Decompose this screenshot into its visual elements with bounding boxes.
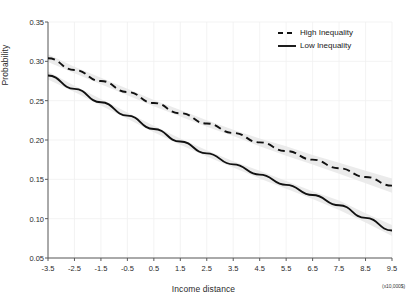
- x-tick-label: 8.5: [360, 264, 370, 273]
- x-tick-label: -0.5: [121, 264, 134, 273]
- y-tick-label: 0.30: [14, 57, 44, 66]
- x-tick-label: 5.5: [281, 264, 291, 273]
- x-tick-label: 2.5: [202, 264, 212, 273]
- tick-marks: [45, 22, 392, 261]
- x-tick-label: 6.5: [307, 264, 317, 273]
- x-tick-label: 7.5: [334, 264, 344, 273]
- y-tick-label: 0.20: [14, 136, 44, 145]
- x-tick-label: -3.5: [42, 264, 55, 273]
- x-tick-label: 9.5: [387, 264, 397, 273]
- x-tick-label: 0.5: [149, 264, 159, 273]
- y-tick-label: 0.10: [14, 214, 44, 223]
- legend-item-label: Low Inequality: [300, 41, 351, 50]
- y-axis-title: Probability: [0, 20, 10, 110]
- y-tick-label: 0.05: [14, 254, 44, 263]
- x-axis-title: Income distance: [0, 284, 407, 294]
- data-curves: [48, 58, 392, 230]
- x-tick-label: -2.5: [68, 264, 81, 273]
- y-tick-label: 0.35: [14, 18, 44, 27]
- x-tick-label: 4.5: [254, 264, 264, 273]
- y-tick-label: 0.15: [14, 175, 44, 184]
- chart-figure: Probability Income distance (x10,000$) 0…: [0, 0, 407, 302]
- legend-item-label: High Inequality: [300, 28, 353, 37]
- x-axis-unit-note: (x10,000$): [382, 283, 405, 289]
- x-tick-label: -1.5: [94, 264, 107, 273]
- x-tick-label: 1.5: [175, 264, 185, 273]
- legend-swatches: [278, 33, 296, 46]
- y-tick-label: 0.25: [14, 96, 44, 105]
- gridlines: [48, 22, 392, 258]
- x-tick-label: 3.5: [228, 264, 238, 273]
